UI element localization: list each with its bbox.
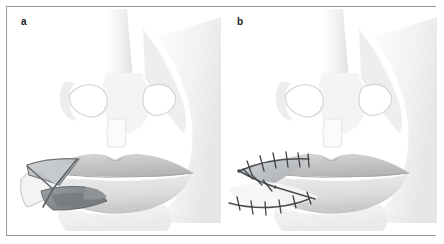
panel-a-label: a (21, 17, 27, 27)
figure-root: a (0, 0, 444, 244)
panel-b: b (223, 7, 437, 235)
panel-b-illustration (223, 7, 437, 235)
panel-a-illustration (7, 7, 221, 235)
panel-a: a (7, 7, 221, 235)
panel-b-label: b (237, 17, 243, 27)
suture-apex-knot (237, 169, 241, 173)
philtrum (323, 119, 342, 147)
philtrum (107, 119, 126, 147)
suture-junction-knot (273, 185, 276, 188)
